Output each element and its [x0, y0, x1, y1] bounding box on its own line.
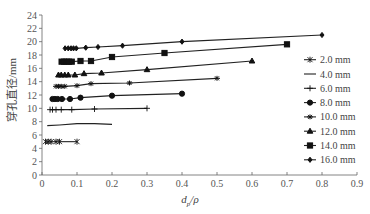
legend-label: 4.0 mm	[320, 69, 351, 80]
series-line	[65, 35, 322, 48]
legend-label: 8.0 mm	[320, 97, 351, 108]
square-marker	[69, 59, 74, 64]
series-group	[43, 32, 324, 144]
y-tick-label: 12	[27, 90, 37, 101]
series-14-0-mm	[59, 42, 290, 65]
series-2-0-mm	[43, 139, 80, 145]
legend-item: 14.0 mm	[304, 140, 356, 151]
series-8-0-mm	[50, 91, 185, 102]
x-axis-title: dp/ρ	[181, 193, 198, 208]
diamond-marker	[308, 157, 312, 162]
axes	[42, 15, 357, 175]
plus-marker	[307, 85, 313, 91]
circle-marker	[179, 91, 184, 96]
y-tick-label: 18	[27, 50, 37, 61]
triangle-marker	[144, 67, 150, 72]
x-tick-label: 0.6	[246, 178, 259, 189]
circle-marker	[67, 96, 72, 101]
y-tick-label: 22	[27, 23, 37, 34]
series-line	[56, 78, 217, 86]
x-tick-label: 0.5	[211, 178, 224, 189]
y-tick-label: 14	[27, 76, 37, 87]
y-axis-title: 穿孔直径/mm	[5, 57, 18, 122]
diamond-marker	[320, 32, 324, 37]
x-axis-title-tail: /ρ	[189, 193, 198, 205]
circle-marker	[78, 95, 83, 100]
star-marker	[307, 114, 313, 119]
series-10-0-mm	[53, 76, 220, 89]
triangle-marker	[99, 70, 105, 75]
square-marker	[307, 143, 312, 148]
legend-item: 10.0 mm	[304, 111, 356, 122]
triangle-marker	[307, 128, 313, 133]
legend-label: 16.0 mm	[320, 154, 356, 165]
legend-item: 8.0 mm	[304, 97, 351, 108]
x-tick-label: 0.4	[176, 178, 189, 189]
y-tick-label: 2	[32, 156, 37, 167]
plus-marker	[58, 107, 64, 113]
legend-label: 12.0 mm	[320, 126, 356, 137]
y-tick-label: 0	[32, 170, 37, 181]
triangle-marker	[72, 72, 78, 77]
series-line	[50, 108, 147, 109]
star-marker	[88, 81, 94, 86]
plus-marker	[144, 105, 150, 111]
legend-label: 6.0 mm	[320, 83, 351, 94]
legend-item: 12.0 mm	[304, 126, 356, 137]
legend: 2.0 mm4.0 mm6.0 mm8.0 mm10.0 mm12.0 mm14…	[304, 54, 356, 165]
x-tick-label: 0	[40, 178, 45, 189]
triangle-marker	[65, 72, 71, 77]
y-tick-label: 24	[27, 10, 37, 21]
diamond-marker	[84, 45, 88, 50]
y-ticks: 024681012141618202224	[27, 10, 42, 181]
legend-item: 4.0 mm	[304, 69, 351, 80]
plus-marker	[92, 106, 98, 112]
star-marker	[74, 83, 80, 88]
x-tick-label: 0.3	[141, 178, 154, 189]
legend-item: 6.0 mm	[304, 83, 351, 94]
legend-item: 2.0 mm	[304, 54, 351, 65]
chart: 024681012141618202224 00.10.20.30.40.50.…	[0, 0, 370, 214]
series-line	[47, 124, 112, 126]
legend-item: 16.0 mm	[304, 154, 356, 165]
star-marker	[62, 84, 68, 89]
diamond-marker	[121, 43, 125, 48]
circle-marker	[109, 93, 114, 98]
star-marker	[127, 81, 133, 86]
plus-marker	[53, 107, 59, 113]
circle-marker	[59, 96, 64, 101]
y-tick-label: 16	[27, 63, 37, 74]
legend-label: 14.0 mm	[320, 140, 356, 151]
x-tick-label: 0.1	[71, 178, 84, 189]
series-6-0-mm	[47, 105, 150, 112]
star-marker	[214, 76, 220, 81]
diamond-marker	[74, 46, 78, 51]
x-tick-label: 0.8	[316, 178, 329, 189]
diamond-marker	[96, 44, 100, 49]
x-ticks: 00.10.20.30.40.50.60.70.80.9	[40, 172, 364, 189]
x-tick-label: 0.7	[281, 178, 294, 189]
circle-marker	[307, 100, 312, 105]
square-marker	[284, 42, 289, 47]
series-line	[58, 61, 252, 75]
y-tick-label: 10	[27, 103, 37, 114]
square-marker	[88, 58, 93, 63]
legend-label: 2.0 mm	[320, 54, 351, 65]
legend-label: 10.0 mm	[320, 111, 356, 122]
square-marker	[109, 54, 114, 59]
y-tick-label: 8	[32, 116, 37, 127]
square-marker	[78, 58, 83, 63]
diamond-marker	[180, 39, 184, 44]
plus-marker	[69, 107, 75, 113]
triangle-marker	[81, 71, 87, 76]
series-4-0-mm	[47, 124, 112, 126]
y-tick-label: 4	[32, 143, 37, 154]
y-tick-label: 6	[32, 130, 37, 141]
triangle-marker	[249, 58, 255, 63]
square-marker	[162, 50, 167, 55]
x-tick-label: 0.2	[106, 178, 119, 189]
x-tick-label: 0.9	[351, 178, 364, 189]
y-tick-label: 20	[27, 36, 37, 47]
